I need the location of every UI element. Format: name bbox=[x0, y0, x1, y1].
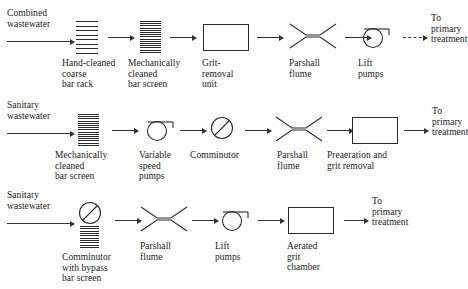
symbol-hand-cleaned-coarse-bar-rack bbox=[76, 21, 98, 54]
stage-label-mechanically-cleaned-bar-screen: Mechanically cleaned bar screen bbox=[55, 150, 107, 182]
outlet-arrow bbox=[403, 34, 427, 41]
symbol-mechanically-cleaned-bar-screen bbox=[140, 21, 161, 53]
symbol-parshall-flume bbox=[289, 22, 337, 50]
connector-arrow bbox=[170, 34, 196, 41]
stage-label-variable-speed-pumps: Variable speed pumps bbox=[139, 150, 171, 182]
connector-arrow bbox=[192, 217, 218, 224]
connector-arrow bbox=[258, 217, 284, 224]
symbol-comminutor bbox=[208, 114, 236, 142]
stage-label-mechanically-cleaned-bar-screen: Mechanically cleaned bar screen bbox=[128, 58, 180, 90]
inlet-label: Sanitary wastewater bbox=[7, 100, 50, 121]
stage-label-lift-pumps: Lift pumps bbox=[358, 58, 384, 79]
inlet-label: Combined wastewater bbox=[7, 8, 50, 29]
stage-label-parshall-flume: Parshall flume bbox=[289, 58, 320, 79]
stage-label-parshall-flume: Parshall flume bbox=[140, 241, 171, 262]
flow-row-sanitary-wastewater-a: Sanitary wastewater Mechanically cleaned… bbox=[0, 92, 468, 184]
stage-label-parshall-flume: Parshall flume bbox=[277, 150, 308, 171]
symbol-bypass-bar-screen bbox=[80, 226, 99, 248]
connector-arrow bbox=[257, 34, 283, 41]
outlet-arrow bbox=[404, 127, 428, 134]
flow-row-sanitary-wastewater-b: Sanitary wastewater Comminutor with bypa… bbox=[0, 184, 468, 289]
stage-label-comminutor: Comminutor bbox=[190, 150, 239, 161]
process-flow-diagram: Combined wastewater Hand-cleaned coarse … bbox=[0, 0, 468, 289]
inlet-arrow bbox=[7, 38, 74, 45]
outlet-label: To primary treatment bbox=[431, 13, 467, 45]
symbol-parshall-flume bbox=[275, 115, 323, 143]
inlet-label: Sanitary wastewater bbox=[7, 190, 50, 211]
symbol-preaeration-and-grit-removal bbox=[352, 117, 398, 144]
inlet-arrow bbox=[7, 220, 74, 227]
flow-row-combined-wastewater: Combined wastewater Hand-cleaned coarse … bbox=[0, 0, 468, 92]
stage-label-comminutor-with-bypass-bar-screen: Comminutor with bypass bar screen bbox=[62, 252, 111, 284]
stage-label-aerated-grit-chamber: Aerated grit chamber bbox=[287, 241, 320, 273]
symbol-parshall-flume bbox=[140, 205, 188, 233]
symbol-variable-speed-pumps bbox=[142, 115, 176, 143]
symbol-lift-pumps bbox=[358, 22, 392, 50]
stage-label-lift-pumps: Lift pumps bbox=[215, 241, 241, 262]
stage-label-hand-cleaned-coarse-bar-rack: Hand-cleaned coarse bar rack bbox=[62, 58, 115, 90]
symbol-grit-removal-unit bbox=[203, 24, 249, 51]
symbol-mechanically-cleaned-bar-screen bbox=[78, 114, 99, 146]
connector-arrow bbox=[108, 34, 134, 41]
symbol-aerated-grit-chamber bbox=[288, 207, 334, 234]
stage-label-grit-removal-unit: Grit- removal unit bbox=[202, 58, 233, 90]
outlet-arrow bbox=[344, 217, 368, 224]
connector-arrow bbox=[112, 127, 138, 134]
symbol-comminutor-with-bypass-bar-screen bbox=[76, 199, 104, 227]
connector-arrow bbox=[327, 127, 353, 134]
symbol-lift-pumps bbox=[217, 205, 251, 233]
connector-arrow bbox=[115, 217, 141, 224]
connector-arrow bbox=[245, 127, 271, 134]
outlet-label: To primary treatment bbox=[372, 196, 408, 228]
outlet-label: To primary treatment bbox=[432, 106, 468, 138]
stage-label-preaeration-and-grit-removal: Preaeration and grit removal bbox=[327, 150, 387, 171]
inlet-arrow bbox=[7, 130, 74, 137]
connector-arrow bbox=[180, 127, 206, 134]
